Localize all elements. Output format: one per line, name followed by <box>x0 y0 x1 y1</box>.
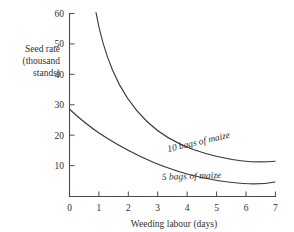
y-tick-label-60: 60 <box>55 9 65 19</box>
curve-label-upper-group: 10 bags of maize <box>166 130 231 154</box>
x-tick-label-3: 3 <box>155 203 160 213</box>
x-axis-title: Weeding labour (days) <box>131 219 217 230</box>
chart-plot-area: 60 50 40 30 20 10 0 1 2 3 4 5 6 7 Seed r… <box>0 0 294 232</box>
x-tick-label-5: 5 <box>214 203 219 213</box>
y-axis-ticks <box>70 14 75 166</box>
x-axis-ticks <box>99 192 276 197</box>
x-tick-label-4: 4 <box>185 203 190 213</box>
y-axis-title-line-1: Seed rate <box>25 44 60 54</box>
y-tick-label-30: 30 <box>55 100 65 110</box>
x-tick-label-6: 6 <box>244 203 249 213</box>
x-tick-label-7: 7 <box>273 203 278 213</box>
y-axis-title-line-3: stands) <box>33 68 60 79</box>
y-axis-title-line-2: (thousand <box>23 56 61 67</box>
curve-label-10-bags: 10 bags of maize <box>166 130 231 154</box>
curve-label-5-bags: 5 bags of maize <box>162 170 222 182</box>
x-tick-label-0: 0 <box>67 203 72 213</box>
x-tick-label-2: 2 <box>126 203 131 213</box>
curve-label-lower-group: 5 bags of maize <box>162 170 222 182</box>
chart-figure: 60 50 40 30 20 10 0 1 2 3 4 5 6 7 Seed r… <box>0 0 294 232</box>
y-tick-label-10: 10 <box>55 161 65 171</box>
y-tick-label-20: 20 <box>55 131 65 141</box>
x-tick-label-1: 1 <box>97 203 102 213</box>
